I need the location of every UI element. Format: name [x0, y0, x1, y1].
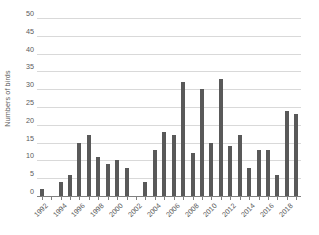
- bar: [294, 114, 298, 196]
- bar: [40, 189, 44, 196]
- x-tick-label: 2006: [159, 202, 181, 224]
- x-tick-label: 2016: [253, 202, 275, 224]
- y-axis-title-label: Numbers of birds: [3, 70, 12, 126]
- plot-area: [37, 18, 301, 196]
- x-tick-label: 2008: [178, 202, 200, 224]
- y-tick-label: 35: [14, 64, 34, 71]
- y-tick-label: 5: [14, 171, 34, 178]
- y-tick-label: 0: [14, 188, 34, 195]
- bar: [143, 182, 147, 196]
- bar: [125, 168, 129, 196]
- bar: [96, 157, 100, 196]
- x-tick-label: 2012: [215, 202, 237, 224]
- bar: [257, 150, 261, 196]
- x-tick-label: 2014: [234, 202, 256, 224]
- bar: [238, 135, 242, 196]
- x-tick-label: 2000: [102, 202, 124, 224]
- bar: [59, 182, 63, 196]
- bar: [266, 150, 270, 196]
- y-tick-label: 15: [14, 135, 34, 142]
- bar: [87, 135, 91, 196]
- bar: [275, 175, 279, 196]
- bars-series: [37, 18, 301, 196]
- bar: [181, 82, 185, 196]
- x-tick-label: 1996: [64, 202, 86, 224]
- bar: [172, 135, 176, 196]
- bar: [209, 143, 213, 196]
- bar: [219, 79, 223, 196]
- y-tick-label: 20: [14, 117, 34, 124]
- bar: [247, 168, 251, 196]
- x-tick-label: 1992: [27, 202, 49, 224]
- bar: [285, 111, 289, 196]
- x-axis-tick-labels: 1992199419961998200020022004200620082010…: [37, 200, 319, 235]
- y-tick-label: 45: [14, 28, 34, 35]
- y-tick-label: 30: [14, 82, 34, 89]
- bar: [153, 150, 157, 196]
- x-tick-label: 2018: [272, 202, 294, 224]
- x-tick-label: 2002: [121, 202, 143, 224]
- y-axis-tick-labels: 50454035302520151050: [14, 14, 36, 196]
- x-tick-label: 1994: [46, 202, 68, 224]
- y-tick-label: 10: [14, 153, 34, 160]
- bar: [191, 153, 195, 196]
- bar: [68, 175, 72, 196]
- y-tick-label: 40: [14, 46, 34, 53]
- bar: [200, 89, 204, 196]
- x-tick-label: 2010: [196, 202, 218, 224]
- y-axis-title: Numbers of birds: [0, 0, 14, 196]
- y-tick-label: 25: [14, 99, 34, 106]
- bar: [106, 164, 110, 196]
- bar: [77, 143, 81, 196]
- bar: [162, 132, 166, 196]
- bar-chart: Numbers of birds 50454035302520151050 19…: [0, 0, 319, 235]
- bar: [115, 160, 119, 196]
- y-tick-label: 50: [14, 10, 34, 17]
- x-tick-label: 1998: [83, 202, 105, 224]
- bar: [228, 146, 232, 196]
- x-tick-label: 2004: [140, 202, 162, 224]
